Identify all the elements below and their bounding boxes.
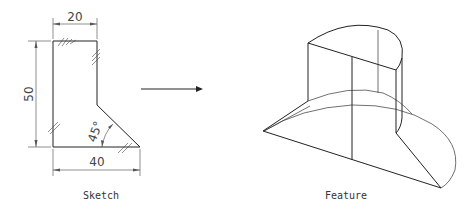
right-arrow-icon [141,86,203,92]
dimension-45-label: 45° [85,119,105,144]
dimension-top-width: 20 [53,10,97,39]
dimension-bottom-width: 40 [53,149,140,176]
drawing-canvas: 20 50 40 45° Sketch [0,0,476,214]
dimension-40-label: 40 [89,155,104,169]
feature-3d-model [263,25,456,188]
dimension-50-label: 50 [22,86,36,101]
dimension-angle: 45° [85,119,113,147]
sketch-caption: Sketch [83,190,119,201]
dimension-height: 50 [22,41,51,147]
feature-caption: Feature [325,190,367,201]
dimension-20-label: 20 [67,10,82,24]
